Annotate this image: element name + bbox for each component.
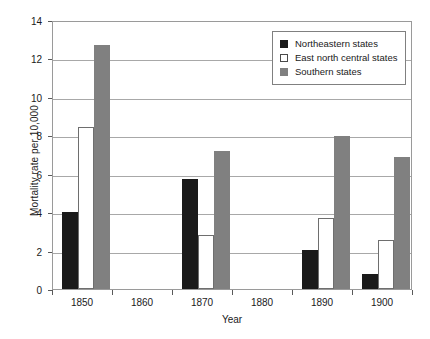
- x-tick-mark-2: [172, 290, 173, 295]
- y-tick-mark-10: [48, 98, 52, 99]
- legend-label-1: East north central states: [295, 53, 397, 63]
- bar-1900-series-1: [378, 240, 394, 289]
- y-axis-title: Mortality rate per 10,000: [29, 51, 40, 271]
- y-tick-label-14: 14: [8, 16, 42, 27]
- mortality-rate-bar-chart: Mortality rate per 10,000 02468101214 18…: [0, 0, 430, 339]
- y-tick-label-6: 6: [8, 169, 42, 180]
- bar-1870-series-1: [198, 235, 214, 289]
- y-tick-mark-12: [48, 59, 52, 60]
- y-tick-mark-2: [48, 252, 52, 253]
- legend: Northeastern statesEast north central st…: [272, 31, 406, 85]
- x-tick-mark-6: [412, 290, 413, 295]
- bar-1850-series-2: [94, 45, 110, 289]
- legend-swatch-icon-1: [280, 54, 288, 62]
- y-tick-label-2: 2: [8, 246, 42, 257]
- legend-item-1: East north central states: [280, 51, 397, 65]
- legend-item-2: Southern states: [280, 65, 397, 79]
- x-tick-label-1890: 1890: [292, 297, 352, 308]
- legend-swatch-icon-0: [280, 40, 288, 48]
- y-tick-mark-6: [48, 175, 52, 176]
- y-tick-label-12: 12: [8, 54, 42, 65]
- y-tick-mark-14: [48, 21, 52, 22]
- bar-1870-series-2: [214, 151, 230, 289]
- legend-item-0: Northeastern states: [280, 37, 397, 51]
- y-tick-mark-8: [48, 136, 52, 137]
- x-tick-label-1870: 1870: [172, 297, 232, 308]
- bar-1900-series-0: [362, 274, 378, 289]
- bar-1900-series-2: [394, 157, 410, 289]
- bar-1890-series-1: [318, 218, 334, 289]
- x-tick-label-1850: 1850: [52, 297, 112, 308]
- bar-1870-series-0: [182, 179, 198, 289]
- x-tick-mark-0: [52, 290, 53, 295]
- x-tick-mark-5: [352, 290, 353, 295]
- y-tick-label-4: 4: [8, 208, 42, 219]
- bar-1890-series-0: [302, 250, 318, 289]
- x-axis-title: Year: [52, 314, 412, 325]
- bar-1850-series-1: [78, 127, 94, 289]
- x-tick-label-1880: 1880: [232, 297, 292, 308]
- y-tick-label-8: 8: [8, 131, 42, 142]
- x-tick-mark-4: [292, 290, 293, 295]
- legend-swatch-icon-2: [280, 68, 288, 76]
- y-tick-label-0: 0: [8, 285, 42, 296]
- x-tick-label-1860: 1860: [112, 297, 172, 308]
- bar-1890-series-2: [334, 136, 350, 289]
- bar-1850-series-0: [62, 212, 78, 289]
- legend-label-0: Northeastern states: [295, 39, 378, 49]
- x-tick-label-1900: 1900: [352, 297, 412, 308]
- y-tick-label-10: 10: [8, 92, 42, 103]
- y-tick-mark-4: [48, 213, 52, 214]
- x-tick-mark-3: [232, 290, 233, 295]
- legend-label-2: Southern states: [295, 67, 362, 77]
- x-tick-mark-1: [112, 290, 113, 295]
